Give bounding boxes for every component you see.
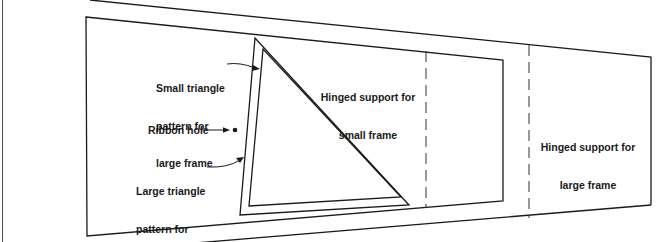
label-ribbon-hole: Ribbon hole [148, 124, 209, 137]
label-large-triangle: Large triangle pattern for large frame [136, 160, 205, 242]
small-triangle-leader [227, 64, 255, 69]
label-hinged-small-line-1: Hinged support for [308, 91, 428, 104]
label-large-triangle-line-1: Large triangle [136, 185, 205, 198]
label-hinged-support-small: Hinged support for small frame [308, 66, 428, 154]
outer-board-bottom-edge [195, 205, 651, 242]
label-hinged-support-large: Hinged support for large frame [528, 116, 648, 204]
label-hinged-large-line-2: large frame [528, 179, 648, 192]
ribbon-hole-dot [233, 128, 238, 133]
label-hinged-large-line-1: Hinged support for [528, 141, 648, 154]
label-hinged-small-line-2: small frame [308, 129, 428, 142]
label-small-triangle-line-1: Small triangle [156, 82, 225, 95]
small-triangle-arrowhead-icon [252, 65, 260, 71]
label-large-triangle-line-2: pattern for [136, 223, 205, 236]
